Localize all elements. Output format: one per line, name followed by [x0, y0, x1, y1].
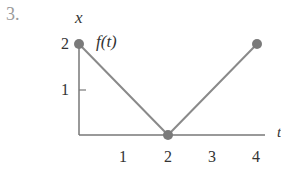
data-point	[252, 39, 262, 49]
data-point	[163, 130, 173, 140]
chart-plot	[0, 0, 281, 181]
data-point	[74, 39, 84, 49]
series-line	[79, 44, 257, 135]
